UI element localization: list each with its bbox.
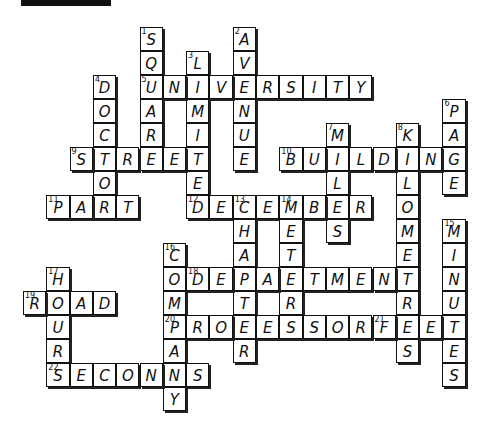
crossword-cell[interactable]: I (186, 123, 209, 147)
crossword-cell[interactable]: E (209, 195, 232, 219)
crossword-cell[interactable]: A (140, 99, 163, 123)
crossword-cell[interactable]: E (186, 171, 209, 195)
crossword-cell[interactable]: V (209, 75, 232, 99)
crossword-cell[interactable]: N (163, 75, 186, 99)
crossword-cell[interactable]: E (233, 147, 256, 171)
crossword-cell[interactable]: R (93, 195, 116, 219)
crossword-cell[interactable]: T (442, 315, 465, 339)
crossword-cell[interactable]: E (396, 315, 419, 339)
crossword-cell[interactable]: S (279, 75, 302, 99)
crossword-cell[interactable]: E (256, 315, 279, 339)
crossword-cell[interactable]: E (209, 267, 232, 291)
crossword-cell[interactable]: D (93, 291, 116, 315)
crossword-cell[interactable]: 3L (186, 51, 209, 75)
crossword-cell[interactable]: E (233, 75, 256, 99)
crossword-cell[interactable]: R (349, 195, 372, 219)
crossword-cell[interactable]: O (209, 315, 232, 339)
crossword-cell[interactable]: R (46, 339, 69, 363)
crossword-cell[interactable]: C (93, 363, 116, 387)
crossword-cell[interactable]: E (349, 267, 372, 291)
crossword-cell[interactable]: R (140, 123, 163, 147)
crossword-cell[interactable]: E (442, 171, 465, 195)
crossword-cell[interactable]: N (442, 267, 465, 291)
crossword-cell[interactable]: S (326, 219, 349, 243)
crossword-cell[interactable]: 15M (442, 219, 465, 243)
crossword-cell[interactable]: O (396, 195, 419, 219)
crossword-cell[interactable]: O (116, 363, 139, 387)
crossword-cell[interactable]: 4D (93, 75, 116, 99)
crossword-cell[interactable]: T (303, 267, 326, 291)
crossword-cell[interactable]: 14M (279, 195, 302, 219)
crossword-cell[interactable]: M (186, 99, 209, 123)
crossword-cell[interactable]: E (442, 339, 465, 363)
crossword-cell[interactable]: 8K (396, 123, 419, 147)
crossword-cell[interactable]: N (163, 363, 186, 387)
crossword-cell[interactable]: 6P (442, 99, 465, 123)
crossword-cell[interactable]: S (279, 315, 302, 339)
crossword-cell[interactable]: R (233, 339, 256, 363)
crossword-cell[interactable]: R (256, 75, 279, 99)
crossword-cell[interactable]: 2A (233, 27, 256, 51)
crossword-cell[interactable]: U (442, 291, 465, 315)
crossword-cell[interactable]: R (279, 291, 302, 315)
crossword-cell[interactable]: N (419, 147, 442, 171)
crossword-cell[interactable]: A (442, 123, 465, 147)
crossword-cell[interactable]: R (116, 147, 139, 171)
crossword-cell[interactable]: G (442, 147, 465, 171)
crossword-cell[interactable]: 22S (46, 363, 69, 387)
crossword-cell[interactable]: E (256, 195, 279, 219)
crossword-cell[interactable]: I (186, 75, 209, 99)
crossword-cell[interactable]: R (186, 315, 209, 339)
crossword-cell[interactable]: Y (163, 387, 186, 411)
crossword-cell[interactable]: U (46, 315, 69, 339)
crossword-cell[interactable]: T (233, 291, 256, 315)
crossword-cell[interactable]: E (396, 243, 419, 267)
crossword-cell[interactable]: D (373, 147, 396, 171)
crossword-cell[interactable]: 19R (23, 291, 46, 315)
crossword-cell[interactable]: T (116, 195, 139, 219)
crossword-cell[interactable]: S (396, 339, 419, 363)
crossword-cell[interactable]: 9S (70, 147, 93, 171)
crossword-cell[interactable]: M (326, 267, 349, 291)
crossword-cell[interactable]: T (279, 243, 302, 267)
crossword-cell[interactable]: 17H (46, 267, 69, 291)
crossword-cell[interactable]: I (396, 147, 419, 171)
crossword-cell[interactable]: I (442, 243, 465, 267)
crossword-cell[interactable]: R (349, 315, 372, 339)
crossword-cell[interactable]: M (163, 291, 186, 315)
crossword-cell[interactable]: S (186, 363, 209, 387)
crossword-cell[interactable]: 7M (326, 123, 349, 147)
crossword-cell[interactable]: 18D (186, 267, 209, 291)
crossword-cell[interactable]: Q (140, 51, 163, 75)
crossword-cell[interactable]: O (163, 267, 186, 291)
crossword-cell[interactable]: T (326, 75, 349, 99)
crossword-cell[interactable]: E (326, 195, 349, 219)
crossword-cell[interactable]: A (70, 195, 93, 219)
crossword-cell[interactable]: N (140, 363, 163, 387)
crossword-cell[interactable]: 16C (163, 243, 186, 267)
crossword-cell[interactable]: C (93, 123, 116, 147)
crossword-cell[interactable]: O (93, 171, 116, 195)
crossword-cell[interactable]: S (442, 363, 465, 387)
crossword-cell[interactable]: I (326, 147, 349, 171)
crossword-cell[interactable]: Y (349, 75, 372, 99)
crossword-cell[interactable]: A (233, 243, 256, 267)
crossword-cell[interactable]: T (396, 267, 419, 291)
crossword-cell[interactable]: M (396, 219, 419, 243)
crossword-cell[interactable]: E (70, 363, 93, 387)
crossword-cell[interactable]: I (303, 75, 326, 99)
crossword-cell[interactable]: E (279, 267, 302, 291)
crossword-cell[interactable]: 10B (279, 147, 302, 171)
crossword-cell[interactable]: T (186, 147, 209, 171)
crossword-cell[interactable]: R (396, 291, 419, 315)
crossword-cell[interactable]: H (233, 219, 256, 243)
crossword-cell[interactable]: A (70, 291, 93, 315)
crossword-cell[interactable]: A (163, 339, 186, 363)
crossword-cell[interactable]: E (279, 219, 302, 243)
crossword-cell[interactable]: 20P (163, 315, 186, 339)
crossword-cell[interactable]: 1S (140, 27, 163, 51)
crossword-cell[interactable]: 13C (233, 195, 256, 219)
crossword-cell[interactable]: 11P (46, 195, 69, 219)
crossword-cell[interactable]: L (326, 171, 349, 195)
crossword-cell[interactable]: O (46, 291, 69, 315)
